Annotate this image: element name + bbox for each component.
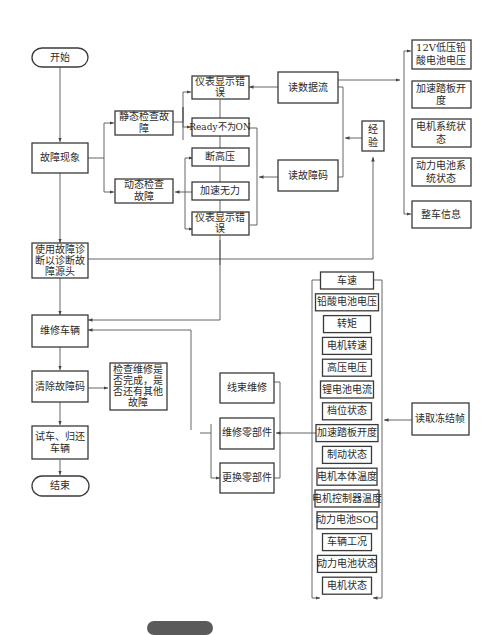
- test-return-line-2: 车辆: [50, 442, 70, 454]
- read-data-stream-node: 读数据流: [278, 72, 338, 103]
- experience-line-2: 验: [368, 136, 378, 148]
- check-repair-node: 检查维修是 否完成，是 否还有其他 故障: [110, 363, 167, 411]
- instrument-error-1-line-2: 误: [215, 87, 225, 98]
- data-stream-item-text: 12V低压铅: [416, 41, 466, 53]
- dynamic-check-node: 动态检查 故障: [115, 178, 173, 204]
- check-repair-line-2: 否完成，是: [113, 374, 163, 386]
- freeze-frame-item: 车辆工况: [323, 534, 372, 551]
- hv-cut-node: 断高压: [192, 148, 249, 166]
- data-stream-item: 电机系统状 态: [412, 119, 471, 147]
- experience-line-1: 经: [368, 123, 378, 135]
- freeze-frame-item-label: 高压电压: [327, 361, 367, 373]
- freeze-frame-item-label: 电机控制器温度: [312, 492, 382, 504]
- data-stream-item-text: 态: [436, 133, 446, 145]
- static-check-node: 静态检查故 障: [115, 110, 173, 136]
- data-stream-item-text: 加速踏板开: [416, 82, 466, 94]
- ready-not-on-node: Ready不为ON: [189, 118, 251, 136]
- fault-symptom-label: 故障现象: [40, 151, 80, 163]
- freeze-frame-item: 电机控制器温度: [312, 490, 382, 507]
- freeze-frame-item: 动力电池状态: [317, 555, 377, 572]
- instrument-error-1-line-1: 仪表显示错: [195, 75, 245, 87]
- dynamic-check-line-1: 动态检查: [124, 178, 164, 190]
- freeze-frame-item-label: 电机状态: [327, 579, 367, 591]
- static-check-line-2: 障: [139, 122, 149, 134]
- check-repair-line-4: 故障: [128, 396, 148, 408]
- freeze-frame-item: 档位状态: [323, 403, 372, 420]
- bottom-tab-handle[interactable]: [147, 621, 213, 635]
- repair-vehicle-node: 维修车辆: [32, 315, 88, 347]
- use-diagnosis-line-1: 使用故障诊: [35, 243, 85, 255]
- repair-option-wire-harness: 线束维修: [220, 373, 274, 403]
- freeze-frame-item: 电机转速: [323, 337, 372, 354]
- freeze-frame-item: 车速: [321, 272, 374, 289]
- clear-fault-code-label: 清除故障码: [35, 380, 85, 392]
- check-repair-line-1: 检查维修是: [113, 363, 163, 375]
- freeze-frame-item: 铅酸电池电压: [316, 294, 379, 311]
- repair-option-replace-parts: 更换零部件: [220, 463, 274, 493]
- start-label: 开始: [50, 51, 70, 63]
- freeze-frame-item-label: 铅酸电池电压: [317, 295, 377, 307]
- static-check-line-1: 静态检查故: [119, 110, 169, 122]
- data-stream-item-text: 统状态: [426, 172, 456, 184]
- freeze-frame-item-label: 车辆工况: [327, 535, 367, 547]
- freeze-frame-item-label: 制动状态: [327, 448, 367, 460]
- read-data-stream-label: 读数据流: [288, 81, 328, 93]
- freeze-frame-item: 加速踏板开度: [316, 425, 378, 442]
- repair-option-label: 线束维修: [227, 381, 267, 393]
- check-repair-line-3: 否还有其他: [113, 385, 163, 397]
- repair-option-label: 维修零部件: [222, 426, 272, 438]
- data-stream-item: 12V低压铅 酸电池电压: [412, 40, 471, 69]
- fault-symptom-node: 故障现象: [32, 143, 88, 173]
- freeze-frame-item: 锂电池电流: [321, 381, 374, 398]
- end-label: 结束: [50, 479, 70, 491]
- data-stream-item-text: 整车信息: [421, 208, 461, 220]
- use-diagnosis-line-3: 障源头: [45, 265, 75, 277]
- test-return-line-1: 试车、归还: [35, 430, 85, 442]
- freeze-frame-item: 转矩: [324, 316, 371, 333]
- ready-not-on-label: Ready不为ON: [189, 121, 251, 132]
- freeze-frame-item-label: 电机本体温度: [317, 470, 377, 482]
- repair-option-repair-parts: 维修零部件: [220, 418, 274, 449]
- data-stream-item-text: 酸电池电压: [416, 54, 466, 66]
- read-fault-code-label: 读故障码: [288, 169, 328, 181]
- data-stream-item: 整车信息: [412, 201, 471, 228]
- data-stream-item-text: 电机系统状: [416, 120, 466, 132]
- hv-cut-label: 断高压: [205, 150, 235, 162]
- dynamic-check-line-2: 故障: [134, 190, 154, 202]
- freeze-frame-item: 动力电池SOC: [316, 512, 379, 529]
- freeze-frame-item-label: 动力电池状态: [317, 557, 377, 569]
- freeze-frame-item-label: 锂电池电流: [322, 383, 372, 395]
- read-fault-code-node: 读故障码: [278, 160, 338, 191]
- use-diagnosis-line-2: 断以诊断故: [35, 254, 85, 266]
- data-stream-item: 动力电池系 统状态: [412, 158, 471, 186]
- freeze-frame-item: 电机本体温度: [317, 468, 377, 485]
- instrument-error-node-1: 仪表显示错 误: [192, 75, 249, 100]
- read-freeze-frame-node: 读取冻结帧: [412, 403, 469, 435]
- freeze-frame-item: 电机状态: [323, 577, 372, 594]
- accel-weak-node: 加速无力: [192, 182, 249, 200]
- read-freeze-frame-label: 读取冻结帧: [415, 412, 465, 424]
- data-stream-item-text: 度: [436, 94, 446, 106]
- instrument-error-2-line-1: 仪表显示错: [195, 211, 245, 223]
- repair-vehicle-label: 维修车辆: [40, 324, 80, 336]
- freeze-frame-items: 车速铅酸电池电压转矩电机转速高压电压锂电池电流档位状态加速踏板开度制动状态电机本…: [312, 272, 382, 594]
- use-diagnosis-node: 使用故障诊 断以诊断故 障源头: [32, 243, 88, 279]
- freeze-frame-item-label: 加速踏板开度: [317, 426, 377, 438]
- freeze-frame-item-label: 转矩: [337, 317, 357, 329]
- start-node: 开始: [32, 48, 88, 67]
- freeze-frame-item: 制动状态: [323, 446, 372, 463]
- experience-node: 经 验: [362, 121, 384, 151]
- instrument-error-node-2: 仪表显示错 误: [192, 211, 249, 236]
- freeze-frame-item-label: 动力电池SOC: [316, 513, 379, 525]
- test-return-node: 试车、归还 车辆: [32, 426, 88, 459]
- end-node: 结束: [32, 476, 89, 496]
- accel-weak-label: 加速无力: [200, 184, 240, 196]
- data-stream-item-text: 动力电池系: [416, 159, 466, 171]
- freeze-frame-item-label: 电机转速: [327, 339, 367, 351]
- freeze-frame-item: 高压电压: [323, 359, 372, 376]
- freeze-frame-item-label: 车速: [337, 274, 357, 286]
- freeze-frame-item-label: 档位状态: [327, 404, 367, 416]
- repair-option-label: 更换零部件: [222, 471, 272, 483]
- clear-fault-code-node: 清除故障码: [32, 371, 88, 402]
